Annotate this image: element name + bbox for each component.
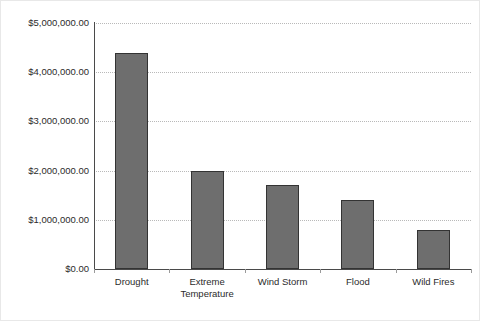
x-axis-category-label: Drought xyxy=(94,276,169,288)
y-axis-tick-labels: $0.00$1,000,000.00$2,000,000.00$3,000,00… xyxy=(1,1,89,321)
x-axis-tick xyxy=(169,269,170,273)
x-axis-category-label: Flood xyxy=(320,276,395,288)
y-axis-tick-label: $5,000,000.00 xyxy=(5,18,89,28)
x-axis-category-label: Wild Fires xyxy=(396,276,471,288)
x-axis-tick xyxy=(396,269,397,273)
y-axis-tick-label: $4,000,000.00 xyxy=(5,67,89,77)
x-axis-tick xyxy=(320,269,321,273)
y-axis-tick-label: $3,000,000.00 xyxy=(5,116,89,126)
x-axis-ticks xyxy=(94,269,471,274)
bar-chart-figure: $0.00$1,000,000.00$2,000,000.00$3,000,00… xyxy=(0,0,480,321)
x-axis-category-label: Extreme Temperature xyxy=(169,276,244,300)
x-axis-category-label: Wind Storm xyxy=(245,276,320,288)
x-axis-category-labels: DroughtExtreme TemperatureWind StormFloo… xyxy=(94,276,471,316)
bar xyxy=(417,230,450,269)
x-axis-tick xyxy=(94,269,95,273)
bar xyxy=(191,171,224,269)
y-axis-tick-label: $0.00 xyxy=(5,264,89,274)
x-axis-tick xyxy=(471,269,472,273)
bar xyxy=(266,185,299,269)
y-axis-tick-label: $1,000,000.00 xyxy=(5,215,89,225)
x-axis-tick xyxy=(245,269,246,273)
bar xyxy=(341,200,374,269)
bar-series xyxy=(94,23,471,269)
y-axis-tick-label: $2,000,000.00 xyxy=(5,166,89,176)
bar xyxy=(115,53,148,269)
